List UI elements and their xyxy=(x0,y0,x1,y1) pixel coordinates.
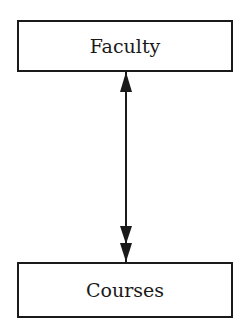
one-arrowhead-icon xyxy=(120,72,132,92)
many-arrowhead-icon-2 xyxy=(120,243,132,262)
many-arrowhead-icon-1 xyxy=(120,226,132,244)
courses-label: Courses xyxy=(86,279,164,301)
courses-entity-box: Courses xyxy=(17,262,233,318)
